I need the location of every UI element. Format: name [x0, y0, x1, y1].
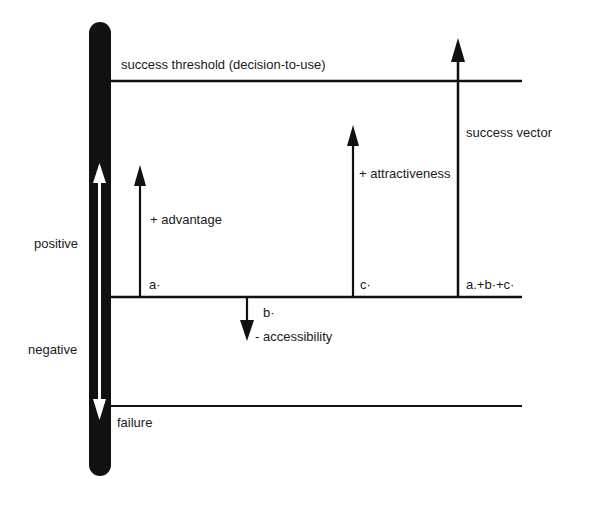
positive-label: positive	[34, 237, 78, 250]
success-vector-arrow-icon	[451, 38, 465, 297]
negative-label: negative	[28, 343, 77, 356]
sum-label: a.+b·+c·	[466, 278, 514, 291]
b-label: b·	[263, 306, 275, 319]
attractiveness-label: + attractiveness	[359, 167, 450, 180]
failure-label: failure	[117, 416, 152, 429]
a-label: a·	[149, 278, 161, 291]
attractiveness-arrow-icon	[347, 125, 359, 297]
success-vector-label: success vector	[466, 126, 552, 139]
advantage-arrow-icon	[134, 165, 146, 297]
c-label: c·	[360, 278, 371, 291]
success-threshold-label: success threshold (decision-to-use)	[121, 58, 325, 71]
diagram-canvas	[0, 0, 598, 508]
accessibility-label: - accessibility	[255, 330, 332, 343]
advantage-label: + advantage	[150, 213, 222, 226]
accessibility-arrow-icon	[240, 297, 254, 341]
